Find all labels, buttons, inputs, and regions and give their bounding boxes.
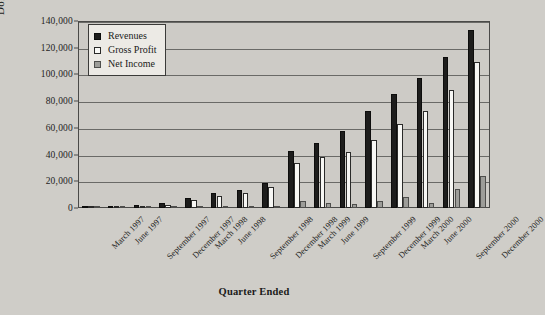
bar-group: [284, 21, 310, 208]
bar: [326, 203, 331, 208]
bar: [120, 206, 125, 208]
bar: [314, 143, 319, 208]
bar-group: [439, 21, 465, 208]
y-axis-tick-label: 60,000: [0, 123, 78, 133]
bar: [237, 190, 242, 208]
bar: [346, 152, 351, 208]
bar: [94, 206, 99, 208]
bar: [243, 193, 248, 208]
bar: [108, 206, 113, 208]
bar-group: [336, 21, 362, 208]
bar: [274, 206, 279, 208]
bar: [340, 131, 345, 208]
legend-item-label: Gross Profit: [108, 44, 157, 56]
bar: [185, 198, 190, 208]
bar: [88, 206, 93, 208]
bar: [288, 151, 293, 208]
bar-group: [413, 21, 439, 208]
bar: [371, 140, 376, 208]
bar: [134, 205, 139, 208]
bar: [268, 187, 273, 208]
bar: [217, 196, 222, 208]
bar-group: [464, 21, 490, 208]
legend-item-net-income: Net Income: [94, 57, 157, 71]
bar: [443, 57, 448, 208]
bar: [191, 200, 196, 208]
bar: [249, 206, 254, 208]
bar: [82, 206, 87, 208]
legend-item-label: Revenues: [108, 30, 147, 42]
bar: [429, 203, 434, 208]
bar-group: [233, 21, 259, 208]
y-axis-tick-label: 140,000: [0, 16, 78, 26]
bar: [146, 206, 151, 208]
bar: [377, 201, 382, 208]
bar: [417, 78, 422, 208]
y-axis-tick-label: 0: [0, 203, 78, 213]
bar: [165, 205, 170, 208]
bar: [262, 183, 267, 208]
chart-legend: Revenues Gross Profit Net Income: [88, 24, 166, 76]
legend-item-revenues: Revenues: [94, 29, 157, 43]
black-square-icon: [94, 33, 101, 40]
legend-item-gross-profit: Gross Profit: [94, 43, 157, 57]
gray-square-icon: [94, 61, 101, 68]
bar: [391, 94, 396, 208]
bar: [474, 62, 479, 208]
bar: [114, 206, 119, 208]
bar: [197, 206, 202, 208]
bar: [294, 163, 299, 208]
bar: [211, 193, 216, 208]
bar-group: [387, 21, 413, 208]
bar: [480, 176, 485, 208]
legend-item-label: Net Income: [108, 58, 155, 70]
bar: [423, 111, 428, 209]
y-axis-tick-label: 100,000: [0, 69, 78, 79]
bar: [159, 203, 164, 208]
bar: [300, 201, 305, 208]
x-axis-title: Quarter Ended: [0, 286, 508, 297]
bar-group: [258, 21, 284, 208]
y-axis-tick-label: 40,000: [0, 150, 78, 160]
bar: [455, 189, 460, 208]
white-square-icon: [94, 47, 101, 54]
y-axis-tick-label: 120,000: [0, 43, 78, 53]
bar: [140, 206, 145, 208]
bar: [223, 206, 228, 208]
bar: [449, 90, 454, 208]
bar-group: [207, 21, 233, 208]
bar-group: [310, 21, 336, 208]
bar: [397, 124, 402, 208]
x-axis-tick-labels: March 1997June 1997September 1997Decembe…: [78, 212, 490, 284]
y-axis-tick-label: 20,000: [0, 176, 78, 186]
bar: [468, 30, 473, 208]
bar: [320, 157, 325, 208]
bar: [352, 204, 357, 208]
bar-group: [361, 21, 387, 208]
bar-group: [181, 21, 207, 208]
bar: [403, 197, 408, 208]
y-axis-tick-label: 80,000: [0, 96, 78, 106]
bar: [171, 206, 176, 208]
bar: [365, 111, 370, 209]
